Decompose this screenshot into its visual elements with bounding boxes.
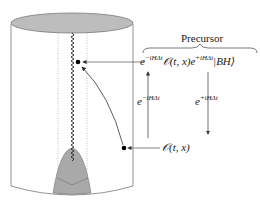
precursor-point	[76, 60, 81, 65]
operator-text: 𝒪(t, x)	[162, 141, 190, 153]
operator-point	[122, 146, 127, 151]
singularity-zigzag	[71, 33, 74, 161]
left-evolution-label: e−iHΔt	[137, 95, 160, 107]
precursor-text: Precursor	[181, 32, 223, 44]
operator-label: 𝒪(t, x)	[162, 141, 190, 154]
main-expression: e−iHΔt𝒪(t, x)e+iHΔt|BH⟩	[140, 55, 235, 68]
expr-state: |BH⟩	[213, 55, 235, 67]
precursor-brace	[143, 44, 257, 53]
curved-evolution-arrow	[82, 67, 123, 145]
expr-exp-2: +iHΔt	[195, 54, 213, 62]
expr-exp-1: −iHΔt	[145, 54, 163, 62]
collapse-cone	[53, 148, 91, 195]
left-evo-exp: −iHΔt	[142, 94, 160, 102]
expr-operator: 𝒪(t, x)	[163, 55, 191, 67]
cylinder-top-cap	[11, 13, 133, 33]
precursor-label: Precursor	[181, 32, 223, 44]
right-evo-exp: +iHΔt	[200, 94, 218, 102]
right-evolution-label: e+iHΔt	[195, 95, 218, 107]
